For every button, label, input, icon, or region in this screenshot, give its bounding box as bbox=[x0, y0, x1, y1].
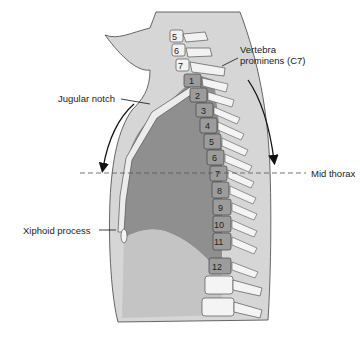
svg-text:2: 2 bbox=[195, 91, 200, 101]
thorax-diagram: 5 6 7 1 2 3 bbox=[0, 0, 360, 341]
label-vertebra-prominens: Vertebra prominens (C7) bbox=[240, 44, 305, 66]
vertebra-label-c5: 5 bbox=[172, 32, 177, 42]
svg-text:10: 10 bbox=[214, 220, 224, 230]
svg-text:8: 8 bbox=[217, 186, 222, 196]
svg-text:7: 7 bbox=[215, 169, 220, 179]
label-jugular-notch: Jugular notch bbox=[58, 93, 115, 104]
label-xiphoid-process: Xiphoid process bbox=[23, 225, 91, 236]
label-vertebra-prominens-line1: Vertebra bbox=[240, 44, 305, 55]
svg-text:12: 12 bbox=[212, 262, 222, 272]
vertebra-label-c6: 6 bbox=[174, 46, 179, 56]
svg-text:3: 3 bbox=[201, 106, 206, 116]
svg-text:4: 4 bbox=[205, 121, 210, 131]
svg-text:5: 5 bbox=[209, 137, 214, 147]
label-vertebra-prominens-line2: prominens (C7) bbox=[240, 55, 305, 66]
vertebra-label-c7: 7 bbox=[178, 61, 183, 71]
xiphoid bbox=[121, 229, 127, 243]
label-mid-thorax: Mid thorax bbox=[311, 168, 355, 179]
svg-text:6: 6 bbox=[212, 153, 217, 163]
svg-text:9: 9 bbox=[218, 203, 223, 213]
svg-text:1: 1 bbox=[189, 76, 194, 86]
svg-text:11: 11 bbox=[214, 237, 223, 247]
